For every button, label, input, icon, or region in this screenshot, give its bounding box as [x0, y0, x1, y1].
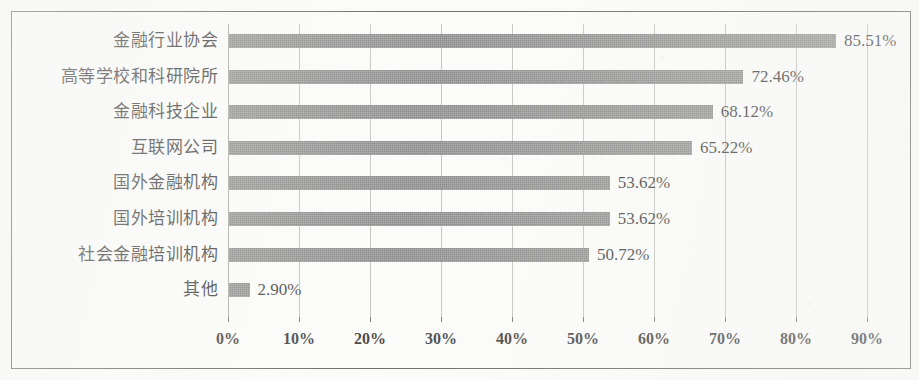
tick-mark-70pct [725, 317, 726, 322]
bar [229, 248, 589, 262]
x-tick-label: 90% [851, 331, 883, 347]
gridline-50pct [583, 24, 584, 317]
category-label: 高等学校和科研院所 [61, 68, 219, 85]
value-label: 2.90% [258, 281, 302, 298]
value-label: 65.22% [700, 139, 752, 156]
category-label: 金融科技企业 [113, 103, 218, 120]
gridline-90pct [867, 24, 868, 317]
category-label: 金融行业协会 [113, 32, 218, 49]
value-label: 50.72% [597, 246, 649, 263]
x-tick-label: 60% [638, 331, 670, 347]
category-label: 互联网公司 [131, 139, 219, 156]
gridline-40pct [512, 24, 513, 317]
category-label: 其他 [183, 281, 218, 298]
bar-chart-figure: 金融行业协会高等学校和科研院所金融科技企业互联网公司国外金融机构国外培训机构社会… [0, 0, 919, 380]
tick-mark-60pct [654, 317, 655, 322]
gridline-10pct [299, 24, 300, 317]
value-label: 85.51% [844, 32, 896, 49]
tick-mark-0pct [228, 317, 229, 322]
x-tick-label: 10% [283, 331, 315, 347]
x-tick-label: 70% [709, 331, 741, 347]
x-tick-label: 20% [354, 331, 386, 347]
bar [229, 283, 250, 297]
category-label: 社会金融培训机构 [78, 246, 218, 263]
gridline-30pct [441, 24, 442, 317]
x-tick-label: 50% [567, 331, 599, 347]
tick-mark-20pct [370, 317, 371, 322]
bar [229, 70, 743, 84]
bar [229, 34, 836, 48]
value-label: 53.62% [618, 174, 670, 191]
gridline-0pct [228, 24, 229, 317]
gridline-20pct [370, 24, 371, 317]
value-label: 68.12% [721, 103, 773, 120]
bar [229, 141, 692, 155]
x-tick-label: 40% [496, 331, 528, 347]
bar [229, 105, 713, 119]
gridline-70pct [725, 24, 726, 317]
x-tick-label: 30% [425, 331, 457, 347]
gridline-60pct [654, 24, 655, 317]
tick-mark-90pct [867, 317, 868, 322]
bar [229, 212, 610, 226]
tick-mark-50pct [583, 317, 584, 322]
x-tick-label: 80% [780, 331, 812, 347]
tick-mark-30pct [441, 317, 442, 322]
tick-mark-10pct [299, 317, 300, 322]
x-tick-label: 0% [216, 331, 240, 347]
category-label: 国外培训机构 [113, 210, 218, 227]
value-label: 53.62% [618, 210, 670, 227]
tick-mark-80pct [796, 317, 797, 322]
category-label: 国外金融机构 [113, 174, 218, 191]
value-label: 72.46% [751, 68, 803, 85]
bar [229, 176, 610, 190]
tick-mark-40pct [512, 317, 513, 322]
